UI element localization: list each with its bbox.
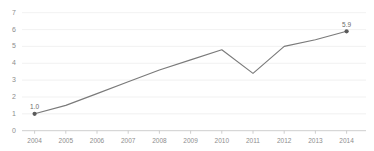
- data-label-last: 5.9: [335, 21, 359, 29]
- y-tick-label-0: 0: [4, 127, 16, 135]
- y-tick-label-7: 7: [4, 9, 16, 17]
- data-series-line: [35, 31, 347, 114]
- y-tick-label-1: 1: [4, 110, 16, 118]
- x-tick-label-2012: 2012: [267, 137, 301, 145]
- x-tick-label-2005: 2005: [49, 137, 83, 145]
- x-tick-label-2007: 2007: [111, 137, 145, 145]
- x-tick-label-2006: 2006: [80, 137, 114, 145]
- x-tick-label-2010: 2010: [205, 137, 239, 145]
- x-tick-label-2014: 2014: [330, 137, 364, 145]
- y-tick-label-6: 6: [4, 26, 16, 34]
- x-tick-label-2009: 2009: [174, 137, 208, 145]
- gridlines: [22, 13, 366, 114]
- x-tick-label-2008: 2008: [142, 137, 176, 145]
- x-tick-label-2011: 2011: [236, 137, 270, 145]
- x-tick-label-2013: 2013: [298, 137, 332, 145]
- data-label-first: 1.0: [23, 103, 47, 111]
- chart-canvas: [0, 0, 374, 151]
- y-tick-label-3: 3: [4, 76, 16, 84]
- y-tick-label-4: 4: [4, 59, 16, 67]
- x-tick-label-2004: 2004: [18, 137, 52, 145]
- line-chart: 7 6 5 4 3 2 1 0 2004 2005 2006 2007 2008…: [0, 0, 374, 151]
- y-tick-label-5: 5: [4, 42, 16, 50]
- y-tick-label-2: 2: [4, 93, 16, 101]
